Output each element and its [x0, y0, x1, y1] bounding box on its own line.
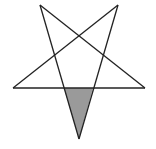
- pentagram-diagram: [0, 0, 156, 149]
- line-bottom-to-top-right: [79, 5, 118, 139]
- line-top-right-to-left: [13, 5, 118, 88]
- shaded-bottom-triangle: [64, 88, 93, 139]
- line-top-left-to-bottom: [40, 5, 79, 139]
- line-right-to-top-left: [40, 5, 145, 88]
